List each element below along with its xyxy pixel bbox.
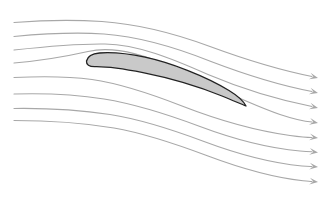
flow-field-diagram: Streamlines of air flowing from left to … — [0, 0, 326, 198]
caption-fragment — [8, 183, 118, 196]
airfoil-cross-section — [86, 53, 246, 106]
arrowhead-group — [309, 73, 319, 186]
streamline-2-arrowhead — [309, 88, 319, 97]
streamline-7 — [14, 108, 312, 166]
streamline-8 — [14, 121, 312, 182]
streamline-group — [14, 20, 312, 181]
airfoil-streamline-figure: Streamlines of air flowing from left to … — [0, 0, 326, 198]
streamline-1-arrowhead — [309, 73, 319, 82]
streamline-3-arrowhead — [309, 103, 319, 112]
streamline-5 — [14, 77, 312, 138]
streamline-4 — [14, 50, 312, 122]
streamline-6 — [14, 94, 312, 152]
